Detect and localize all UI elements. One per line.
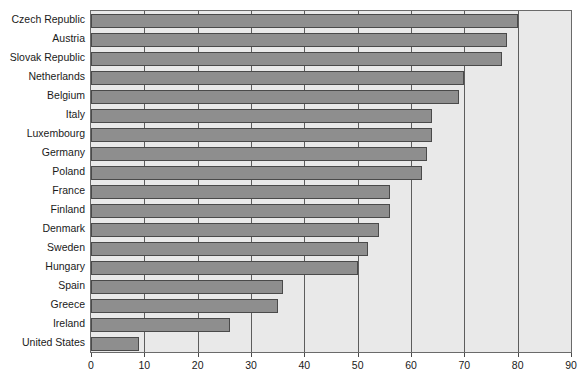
x-tick-mark xyxy=(518,353,519,357)
plot-area xyxy=(90,10,572,353)
category-label: Hungary xyxy=(45,261,85,272)
bar xyxy=(91,204,390,218)
x-tick-label: 30 xyxy=(245,359,257,371)
x-axis: 0102030405060708090 xyxy=(90,353,572,379)
bar xyxy=(91,166,422,180)
category-label: Czech Republic xyxy=(11,14,85,25)
bar xyxy=(91,261,358,275)
category-label: Spain xyxy=(58,280,85,291)
x-tick-label: 60 xyxy=(405,359,417,371)
x-tick-mark xyxy=(304,353,305,357)
x-tick-mark xyxy=(571,353,572,357)
bar xyxy=(91,280,283,294)
x-tick-mark xyxy=(198,353,199,357)
x-tick-label: 70 xyxy=(458,359,470,371)
bar-chart: Czech RepublicAustriaSlovak RepublicNeth… xyxy=(0,0,583,379)
category-label: Sweden xyxy=(47,242,85,253)
bar xyxy=(91,242,368,256)
category-axis-labels: Czech RepublicAustriaSlovak RepublicNeth… xyxy=(0,0,90,379)
category-label: Italy xyxy=(66,109,85,120)
bar xyxy=(91,90,459,104)
bar xyxy=(91,109,432,123)
x-tick-label: 90 xyxy=(565,359,577,371)
x-tick-label: 0 xyxy=(88,359,94,371)
x-tick-mark xyxy=(91,353,92,357)
x-tick-label: 10 xyxy=(138,359,150,371)
x-tick-mark xyxy=(144,353,145,357)
bar xyxy=(91,147,427,161)
bar xyxy=(91,33,507,47)
x-tick-mark xyxy=(411,353,412,357)
category-label: Germany xyxy=(42,147,85,158)
category-label: Netherlands xyxy=(28,71,85,82)
x-tick-label: 20 xyxy=(192,359,204,371)
category-label: Luxembourg xyxy=(27,128,85,139)
bar xyxy=(91,299,278,313)
x-tick-label: 40 xyxy=(298,359,310,371)
x-tick-mark xyxy=(464,353,465,357)
gridline xyxy=(518,11,519,352)
bar xyxy=(91,223,379,237)
category-label: Finland xyxy=(51,204,85,215)
category-label: Ireland xyxy=(53,318,85,329)
bar xyxy=(91,128,432,142)
category-label: Greece xyxy=(51,299,85,310)
category-label: Slovak Republic xyxy=(10,52,85,63)
x-tick-label: 80 xyxy=(512,359,524,371)
x-tick-mark xyxy=(358,353,359,357)
x-tick-label: 50 xyxy=(352,359,364,371)
category-label: Austria xyxy=(52,33,85,44)
bar xyxy=(91,337,139,351)
category-label: Belgium xyxy=(47,90,85,101)
category-label: France xyxy=(52,185,85,196)
bar xyxy=(91,71,464,85)
x-tick-mark xyxy=(251,353,252,357)
category-label: Denmark xyxy=(42,223,85,234)
bar xyxy=(91,14,518,28)
bar xyxy=(91,52,502,66)
bar xyxy=(91,318,230,332)
category-label: United States xyxy=(22,337,85,348)
category-label: Poland xyxy=(52,166,85,177)
bar xyxy=(91,185,390,199)
